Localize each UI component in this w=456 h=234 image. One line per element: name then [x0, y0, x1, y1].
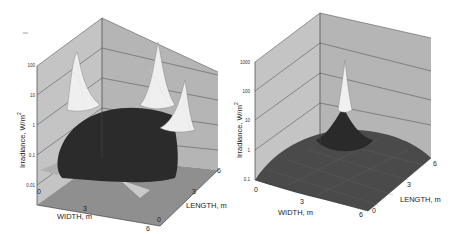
width-tick: 6 [146, 225, 150, 232]
width-tick: 0 [254, 186, 258, 193]
z-tick: 1000 [232, 60, 250, 65]
width-axis-label: WIDTH, m [278, 208, 313, 217]
surface-plot-left [0, 0, 228, 234]
length-tick: 3 [407, 181, 411, 188]
length-tick: 6 [433, 160, 437, 167]
z-tick: 100 [17, 63, 35, 68]
length-tick: 6 [217, 167, 221, 174]
length-axis-label: LENGTH, m [400, 195, 441, 204]
z-tick: 100 [232, 89, 250, 94]
z-tick: 0.1 [232, 177, 250, 182]
chart-right-panel: 1000 100 10 1 0.1 Irradiance, W/m2 0 3 6… [228, 0, 456, 234]
chart-left-panel: 100 10 1 0.1 0.01 Irradiance, W/m2 0 3 6… [0, 0, 228, 234]
width-tick: 6 [359, 211, 363, 218]
length-tick: 0 [157, 216, 161, 223]
z-axis-label: Irradiance, W/m2 [16, 112, 27, 168]
width-tick: 3 [83, 205, 87, 212]
z-tick: 10 [17, 93, 35, 98]
length-tick: 3 [192, 188, 196, 195]
width-axis-label: WIDTH, m [57, 212, 92, 221]
length-tick: 0 [372, 207, 376, 214]
width-tick: 0 [37, 188, 41, 195]
width-tick: 3 [300, 198, 304, 205]
length-axis-label: LENGTH, m [186, 201, 227, 210]
z-axis-label: Irradiance, W/m2 [233, 102, 244, 158]
z-tick: 0.01 [17, 183, 35, 188]
